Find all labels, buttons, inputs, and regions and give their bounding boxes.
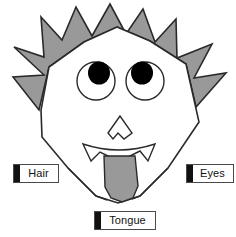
callout-hair-label: Hair <box>20 165 58 182</box>
face-diagram: Hair Eyes Tongue <box>0 0 236 237</box>
tongue-shape <box>104 156 138 202</box>
callout-eyes-label: Eyes <box>193 165 233 182</box>
face-illustration <box>0 0 236 237</box>
callout-tongue-label: Tongue <box>101 212 155 229</box>
callout-tongue[interactable]: Tongue <box>94 211 156 230</box>
right-eye-pupil <box>131 62 153 85</box>
callout-eyes[interactable]: Eyes <box>186 164 234 183</box>
left-eye-pupil <box>88 62 110 85</box>
callout-hair[interactable]: Hair <box>13 164 59 183</box>
